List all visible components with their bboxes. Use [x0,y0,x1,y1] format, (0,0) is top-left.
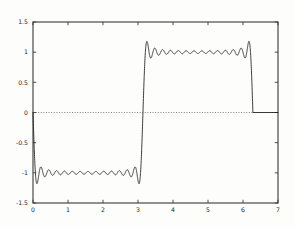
y-tick-label: 0 [24,109,28,116]
x-axis-tick-labels: 01234567 [31,206,280,213]
y-tick-label: 0.5 [18,79,28,86]
x-tick-label: 2 [101,206,105,213]
x-tick-label: 0 [31,206,35,213]
y-tick-label: -1 [22,169,28,176]
x-tick-label: 1 [66,206,70,213]
y-tick-label: 1 [24,48,28,55]
y-tick-label: 1.5 [18,18,28,25]
x-tick-label: 6 [241,206,245,213]
x-tick-label: 7 [276,206,280,213]
chart-screenshot: 01234567 -1.5-1-0.500.511.5 [0,0,295,228]
x-tick-label: 3 [136,206,140,213]
x-tick-label: 5 [206,206,210,213]
x-tick-label: 4 [171,206,175,213]
y-axis-tick-labels: -1.5-1-0.500.511.5 [16,18,28,206]
gibbs-phenomenon-chart: 01234567 -1.5-1-0.500.511.5 [0,0,295,228]
y-tick-label: -0.5 [16,139,28,146]
y-tick-label: -1.5 [16,199,28,206]
